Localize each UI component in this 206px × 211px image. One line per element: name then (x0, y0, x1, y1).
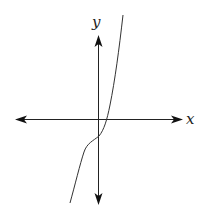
y-axis-label: y (91, 13, 101, 31)
graph-figure: y x (0, 0, 206, 211)
x-axis-label: x (186, 110, 195, 128)
graph-svg: y x (0, 0, 206, 211)
